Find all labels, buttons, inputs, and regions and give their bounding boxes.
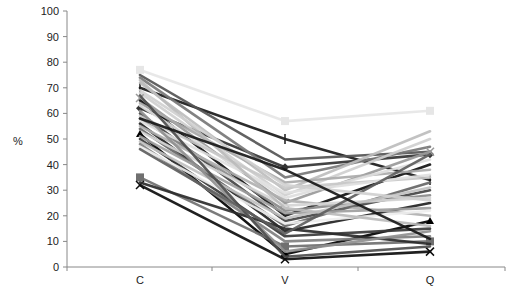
- y-tick-label: 0: [53, 261, 59, 273]
- y-tick-label: 100: [41, 5, 59, 17]
- y-axis: 0102030405060708090100: [41, 5, 67, 273]
- y-tick-label: 70: [47, 82, 59, 94]
- data-point-marker: [136, 173, 144, 181]
- data-point-marker: [281, 117, 289, 125]
- y-tick-label: 40: [47, 159, 59, 171]
- line-chart: 0102030405060708090100 CVQ %: [0, 0, 518, 298]
- x-category-label: C: [136, 274, 144, 286]
- y-tick-label: 10: [47, 235, 59, 247]
- x-category-label: V: [281, 274, 289, 286]
- y-tick-label: 50: [47, 133, 59, 145]
- x-category-label: Q: [426, 274, 435, 286]
- y-tick-label: 90: [47, 31, 59, 43]
- series-group: [136, 66, 434, 263]
- y-axis-label: %: [13, 135, 23, 147]
- y-tick-label: 80: [47, 56, 59, 68]
- x-axis: CVQ: [67, 267, 505, 286]
- data-point-marker: [136, 66, 144, 74]
- y-tick-label: 60: [47, 107, 59, 119]
- y-tick-label: 30: [47, 184, 59, 196]
- data-point-marker: [426, 107, 434, 115]
- y-tick-label: 20: [47, 210, 59, 222]
